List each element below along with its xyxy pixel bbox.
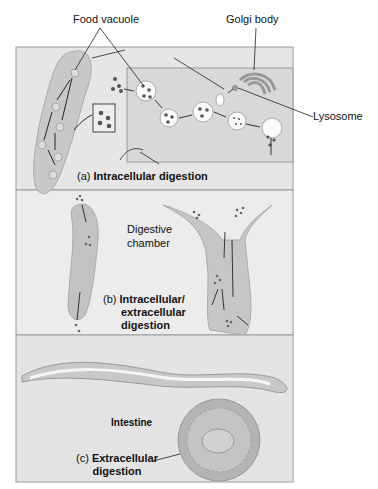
caption-b: (b) Intracellular/ extracellular digesti… bbox=[103, 293, 186, 332]
intestine-label: Intestine bbox=[111, 417, 152, 428]
food-vacuole-label: Food vacuole bbox=[73, 13, 139, 25]
digestion-diagram bbox=[0, 0, 378, 489]
golgi-body-label: Golgi body bbox=[226, 13, 279, 25]
digestive-chamber-label: Digestive chamber bbox=[127, 222, 172, 250]
caption-c: (c) Extracellular digestion bbox=[76, 452, 158, 478]
food-box bbox=[93, 104, 115, 132]
lysosome-label: Lysosome bbox=[313, 110, 363, 122]
caption-a: (a) Intracellular digestion bbox=[77, 170, 208, 183]
